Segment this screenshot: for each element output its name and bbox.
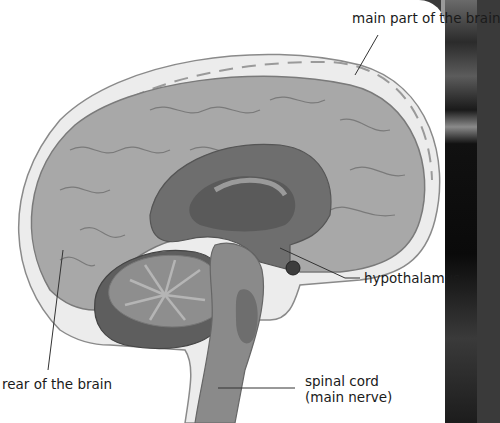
label-hypothalamus: hypothalamus	[364, 270, 460, 286]
label-spinal-cord-line1: spinal cord	[305, 373, 392, 389]
label-spinal-cord-line2: (main nerve)	[305, 389, 392, 405]
adjacent-photo-edge	[441, 0, 477, 423]
label-main-part-of-brain: main part of the brain	[352, 10, 500, 26]
pituitary-gland	[286, 261, 300, 275]
label-rear-of-brain: rear of the brain	[2, 376, 112, 392]
label-spinal-cord: spinal cord (main nerve)	[305, 373, 392, 405]
diagram-page: main part of the brain hypothalamus rear…	[0, 0, 445, 423]
brain-illustration	[0, 0, 445, 423]
